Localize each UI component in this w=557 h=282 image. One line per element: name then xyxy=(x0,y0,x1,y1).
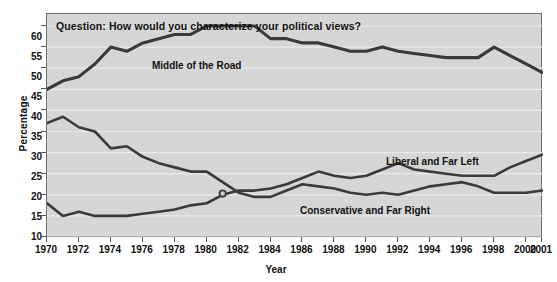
y-tick-label: 15 xyxy=(18,212,42,222)
y-tick-label: 30 xyxy=(18,152,42,162)
plot-area xyxy=(46,13,542,237)
y-tick-label: 35 xyxy=(18,132,42,142)
x-axis-title: Year xyxy=(0,264,552,275)
x-tick-mark xyxy=(174,237,175,242)
y-tick-label: 25 xyxy=(18,172,42,182)
x-tick-label: 1980 xyxy=(189,244,223,255)
x-tick-label: 1988 xyxy=(316,244,350,255)
x-tick-mark xyxy=(541,237,542,242)
plot-svg xyxy=(47,14,543,238)
y-tick-mark xyxy=(41,109,46,110)
y-tick-label: 55 xyxy=(18,52,42,62)
x-tick-mark xyxy=(46,237,47,242)
x-tick-mark xyxy=(270,237,271,242)
y-tick-mark xyxy=(41,215,46,216)
x-tick-label: 1970 xyxy=(29,244,63,255)
x-tick-label: 1990 xyxy=(348,244,382,255)
y-tick-label: 40 xyxy=(18,112,42,122)
y-tick-mark xyxy=(41,152,46,153)
x-tick-label: 1998 xyxy=(476,244,510,255)
chart-question-title: Question: How would you characterize you… xyxy=(56,20,361,32)
x-tick-mark xyxy=(110,237,111,242)
y-tick-mark xyxy=(41,236,46,237)
series-label-conservative-and-far-right: Conservative and Far Right xyxy=(300,205,430,216)
y-tick-mark xyxy=(41,88,46,89)
x-tick-label: 1982 xyxy=(221,244,255,255)
x-tick-label: 1986 xyxy=(284,244,318,255)
x-tick-mark xyxy=(78,237,79,242)
x-tick-mark xyxy=(333,237,334,242)
series-label-liberal-and-far-left: Liberal and Far Left xyxy=(386,156,479,167)
x-tick-label: 1992 xyxy=(380,244,414,255)
y-tick-mark xyxy=(41,194,46,195)
x-tick-label: 1974 xyxy=(93,244,127,255)
series-label-middle-of-the-road: Middle of the Road xyxy=(152,60,241,71)
y-tick-mark xyxy=(41,173,46,174)
y-tick-mark xyxy=(41,46,46,47)
x-tick-mark xyxy=(493,237,494,242)
x-tick-label: 1984 xyxy=(253,244,287,255)
x-tick-mark xyxy=(301,237,302,242)
x-tick-mark xyxy=(461,237,462,242)
y-tick-mark xyxy=(41,25,46,26)
y-tick-label: 60 xyxy=(18,32,42,42)
y-tick-label: 20 xyxy=(18,192,42,202)
y-tick-mark xyxy=(41,67,46,68)
x-tick-mark xyxy=(429,237,430,242)
x-tick-label: 1994 xyxy=(412,244,446,255)
x-tick-label: 1976 xyxy=(125,244,159,255)
x-tick-mark xyxy=(238,237,239,242)
crossover-marker xyxy=(219,190,225,196)
series-line-middle-of-the-road xyxy=(47,26,542,89)
x-tick-mark xyxy=(397,237,398,242)
x-tick-mark xyxy=(525,237,526,242)
y-tick-label: 45 xyxy=(18,92,42,102)
x-tick-mark xyxy=(142,237,143,242)
x-tick-mark xyxy=(206,237,207,242)
y-tick-label: 50 xyxy=(18,72,42,82)
y-axis-tick-labels: 60 55 50 45 40 35 30 25 20 15 10 xyxy=(16,0,42,282)
y-tick-mark xyxy=(41,131,46,132)
x-tick-label: 1978 xyxy=(157,244,191,255)
y-tick-label: 10 xyxy=(18,232,42,242)
x-tick-label: 2001 xyxy=(524,244,557,255)
x-tick-mark xyxy=(365,237,366,242)
x-tick-label: 1996 xyxy=(444,244,478,255)
x-tick-label: 1972 xyxy=(61,244,95,255)
